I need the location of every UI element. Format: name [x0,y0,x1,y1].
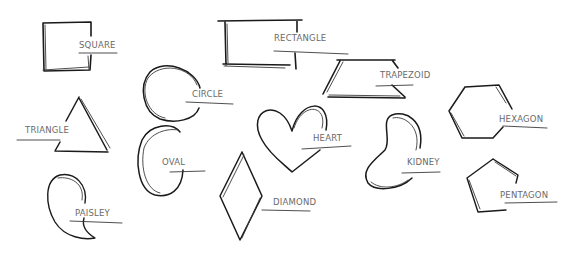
paisley-shape [48,175,122,239]
pentagon-shape [467,159,557,212]
label-triangle: TRIANGLE [25,125,69,135]
label-paisley: PAISLEY [75,208,110,218]
label-oval: OVAL [162,157,185,167]
rectangle-shape [218,20,348,69]
label-kidney: KIDNEY [407,157,440,167]
label-hexagon: HEXAGON [499,114,543,124]
diamond-shape [220,152,310,240]
label-heart: HEART [313,133,342,143]
label-trapezoid: TRAPEZOID [380,70,430,80]
label-circle: CIRCLE [192,89,223,99]
label-square: SQUARE [79,40,116,50]
label-diamond: DIAMOND [273,197,316,207]
label-rectangle: RECTANGLE [274,33,326,43]
hexagon-shape [449,85,547,138]
kidney-shape [366,114,440,189]
label-pentagon: PENTAGON [500,190,548,200]
